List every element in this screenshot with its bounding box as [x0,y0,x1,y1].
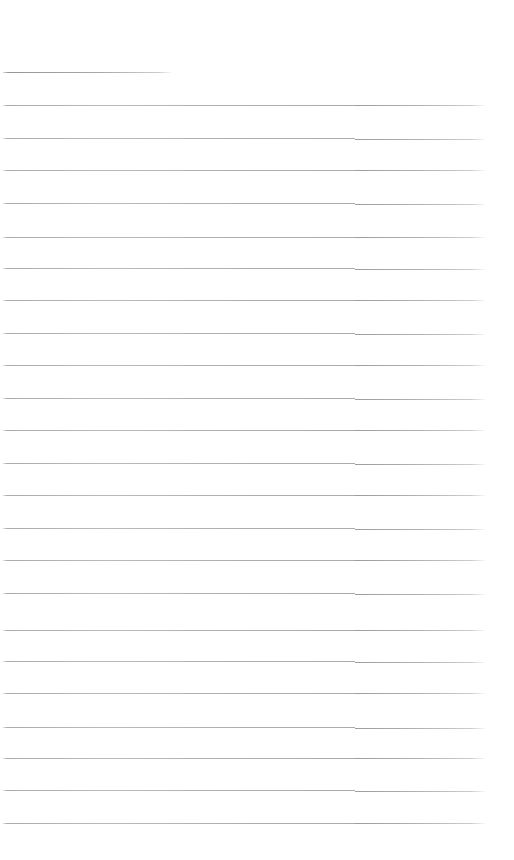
ruled-line-segment [3,560,355,561]
ruled-line-segment [3,430,355,431]
ruled-line-segment [3,170,355,171]
ruled-line [3,430,486,431]
ruled-line-segment [3,398,355,399]
ruled-line [3,365,486,366]
ruled-line-segment [3,495,355,496]
ruled-line-segment [3,661,355,662]
ruled-line-segment [355,365,486,366]
ruled-line [3,203,486,204]
ruled-line-segment [355,399,486,400]
ruled-line [3,72,172,73]
ruled-line-segment [355,334,486,335]
ruled-line-segment [355,529,486,530]
ruled-line-segment [3,138,355,139]
ruled-line-segment [355,791,486,792]
ruled-line-segment [3,593,355,594]
ruled-line [3,398,486,399]
ruled-line-segment [3,823,355,824]
ruled-line-segment [3,463,355,464]
ruled-line-segment [3,268,355,269]
ruled-line-segment [355,630,486,631]
ruled-line [3,268,486,269]
ruled-line [3,593,486,594]
ruled-line-segment [355,204,486,205]
ruled-line [3,138,486,139]
ruled-line [3,528,486,529]
ruled-line-segment [3,300,355,301]
ruled-line-segment [355,464,486,465]
ruled-line [3,727,486,728]
ruled-line-segment [355,495,486,496]
ruled-line-segment [3,365,355,366]
ruled-line-segment [3,72,172,73]
ruled-line-segment [355,594,486,595]
ruled-line-segment [3,333,355,334]
scanned-page [0,0,514,860]
ruled-line-segment [3,528,355,529]
ruled-line-segment [355,560,486,561]
ruled-line-segment [355,693,486,694]
ruled-line-segment [355,269,486,270]
ruled-line-segment [355,662,486,663]
ruled-line [3,823,486,824]
ruled-line [3,105,486,106]
ruled-line [3,560,486,561]
ruled-line-segment [3,203,355,204]
ruled-line [3,463,486,464]
ruled-line-segment [355,823,486,824]
ruled-line [3,170,486,171]
ruled-line-segment [3,727,355,728]
ruled-line-segment [355,430,486,431]
ruled-line-segment [3,693,355,694]
ruled-line-segment [355,105,486,106]
ruled-line-segment [355,139,486,140]
ruled-line-segment [355,300,486,301]
ruled-line [3,300,486,301]
ruled-line [3,693,486,694]
ruled-line [3,333,486,334]
ruled-line-segment [3,790,355,791]
ruled-line-segment [355,728,486,729]
ruled-line-segment [3,758,355,759]
ruled-line [3,661,486,662]
ruled-line-segment [355,170,486,171]
ruled-line-segment [3,630,355,631]
ruled-line-segment [3,237,355,238]
ruled-line [3,495,486,496]
ruled-line [3,790,486,791]
ruled-line [3,630,486,631]
ruled-line-segment [3,105,355,106]
ruled-line [3,237,486,238]
ruled-line [3,758,486,759]
ruled-line-segment [355,237,486,238]
ruled-line-segment [355,758,486,759]
